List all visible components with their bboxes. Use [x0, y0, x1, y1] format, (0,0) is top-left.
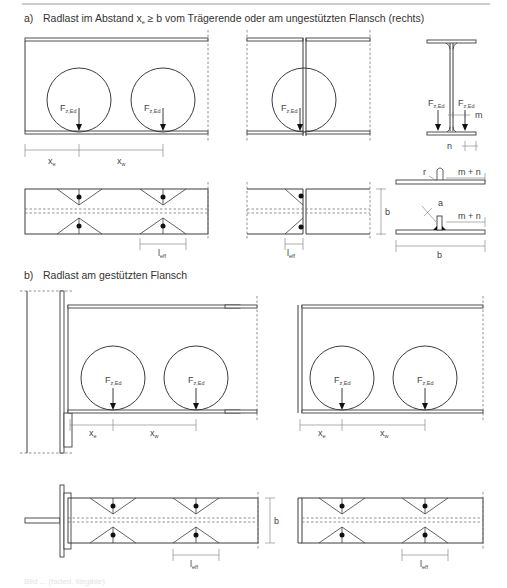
m-plus-n-label: m + n: [458, 167, 481, 177]
b3-plan-view-supported: leff b: [25, 485, 279, 570]
b1-side-view-supported: Fz,Ed Fz,Ed xe xw: [20, 291, 257, 453]
a2-side-view-end: Fz,Ed: [247, 30, 370, 142]
b-label: b: [274, 516, 279, 526]
radlast-diagram: a) Radlast im Abstand xe ≥ b vom Trägere…: [0, 0, 507, 588]
b2-side-view-stiffener: Fz,Ed Fz,Ed xe xw: [298, 296, 483, 439]
b4-plan-view-stiffener: leff: [298, 492, 483, 570]
force-label: Fz,Ed: [188, 375, 205, 386]
leff-label: leff: [287, 248, 295, 259]
section-a-label: a): [24, 12, 33, 24]
section-a-title: Radlast im Abstand xe ≥ b vom Trägerende…: [43, 12, 424, 25]
force-label: Fz,Ed: [60, 103, 77, 114]
a3-i-beam-section: Fz,Ed Fz,Ed m n: [427, 40, 483, 151]
force-label: Fz,Ed: [334, 375, 351, 386]
a1-side-view: Fz,Ed Fz,Ed xe xw: [25, 30, 208, 167]
xe-label: xe: [89, 428, 97, 439]
force-label: Fz,Ed: [428, 98, 445, 109]
m-plus-n-label: m + n: [458, 211, 481, 221]
b1-beam-end: [225, 305, 257, 413]
xe-label: xe: [318, 428, 326, 439]
leff-label: leff: [158, 248, 166, 259]
n-label: n: [447, 141, 452, 151]
a6-flange-details: r m + n a m + n b: [396, 167, 485, 260]
section-b-label: b): [24, 269, 33, 281]
xe-label: xe: [48, 156, 56, 167]
force-label: Fz,Ed: [281, 103, 298, 114]
wheel: [272, 68, 336, 132]
footer-caption: Bild ... (faded, illegible): [24, 577, 105, 586]
leff-label: leff: [420, 559, 428, 570]
force-label: Fz,Ed: [144, 103, 161, 114]
force-label: Fz,Ed: [105, 375, 122, 386]
m-label: m: [475, 110, 483, 120]
b-label: b: [437, 250, 442, 260]
xw-label: xw: [150, 428, 159, 439]
xw-label: xw: [380, 428, 389, 439]
section-b-title: Radlast am gestützten Flansch: [43, 269, 187, 281]
a5-plan-view-end: leff b: [247, 182, 390, 259]
b-label: b: [385, 207, 390, 217]
leff-label: leff: [190, 559, 198, 570]
force-label: Fz,Ed: [417, 375, 434, 386]
a-label: a: [438, 198, 443, 208]
xw-label: xw: [117, 156, 126, 167]
a4-plan-view: leff: [25, 182, 208, 259]
force-label: Fz,Ed: [458, 98, 475, 109]
r-label: r: [423, 167, 426, 177]
